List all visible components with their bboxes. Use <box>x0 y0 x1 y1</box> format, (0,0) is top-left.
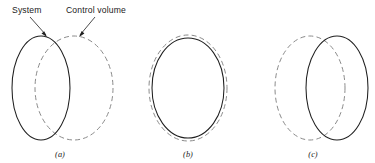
control-volume-leader-arrow-icon <box>79 31 84 37</box>
panel-c: (c) <box>275 36 368 159</box>
panel-c-system-ellipse <box>306 36 368 140</box>
panel-c-control-volume-ellipse <box>275 36 345 140</box>
panel-a-label: (a) <box>55 150 65 159</box>
panel-a: (a) <box>12 36 113 159</box>
panel-a-system-ellipse <box>12 36 70 140</box>
panel-b-label: (b) <box>183 150 193 159</box>
figure-container: System Control volume (a) (b) (c) <box>0 0 375 163</box>
control-volume-leader <box>79 17 95 37</box>
control-volume-callout-label: Control volume <box>66 5 126 15</box>
figure-svg: System Control volume (a) (b) (c) <box>0 0 375 163</box>
panel-b-system-ellipse <box>152 38 224 138</box>
panel-a-control-volume-ellipse <box>35 36 113 140</box>
panel-b-control-volume-ellipse <box>149 35 227 141</box>
panel-b: (b) <box>149 35 227 159</box>
system-callout-label: System <box>12 5 42 15</box>
system-leader <box>30 17 47 37</box>
panel-c-label: (c) <box>308 150 318 159</box>
